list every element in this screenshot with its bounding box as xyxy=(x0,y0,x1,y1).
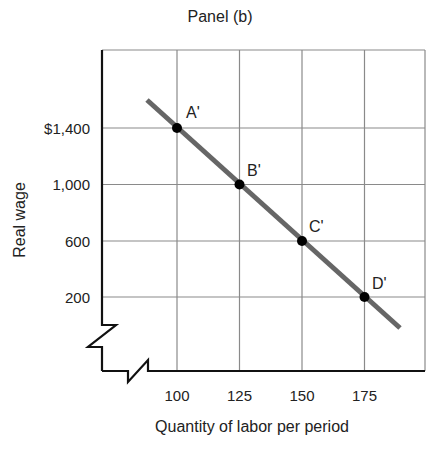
y-tick-600: 600 xyxy=(65,233,90,250)
y-axis xyxy=(88,50,116,371)
chart-svg: Panel (b) A' B' C' D' $1,400 1,000 600 2… xyxy=(0,0,426,451)
y-tick-200: 200 xyxy=(65,289,90,306)
point-label-d: D' xyxy=(372,275,387,292)
x-tick-125: 125 xyxy=(227,387,252,404)
y-tick-1400: $1,400 xyxy=(44,120,90,137)
x-axis-title: Quantity of labor per period xyxy=(155,418,349,435)
point-label-b: B' xyxy=(247,162,261,179)
point-d xyxy=(360,292,370,302)
grid xyxy=(102,50,425,371)
point-b xyxy=(235,180,245,190)
axes xyxy=(88,50,425,382)
point-label-a: A' xyxy=(186,104,200,121)
x-tick-100: 100 xyxy=(164,387,189,404)
point-c xyxy=(297,236,307,246)
x-axis xyxy=(102,360,425,382)
y-axis-title: Real wage xyxy=(11,182,28,258)
point-label-c: C' xyxy=(309,218,324,235)
x-tick-150: 150 xyxy=(289,387,314,404)
point-a xyxy=(172,123,182,133)
y-tick-1000: 1,000 xyxy=(52,176,90,193)
chart-title: Panel (b) xyxy=(188,8,253,25)
x-tick-175: 175 xyxy=(352,387,377,404)
